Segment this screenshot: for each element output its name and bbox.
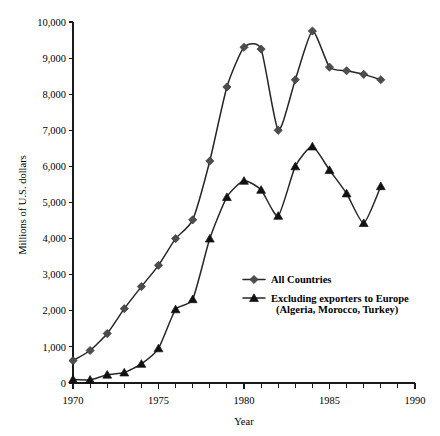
y-axis-tick-label: 6,000 <box>42 161 66 172</box>
data-point-marker <box>120 368 129 376</box>
x-axis-tick-label: 1970 <box>63 395 84 406</box>
y-axis-tick-label: 2,000 <box>42 305 66 316</box>
y-axis-tick-label: 10,000 <box>37 17 66 28</box>
data-point-marker <box>291 162 300 170</box>
data-point-marker <box>377 76 385 84</box>
data-point-marker <box>291 76 299 84</box>
x-axis-tick-label: 1980 <box>234 395 255 406</box>
data-point-marker <box>325 166 334 174</box>
data-point-marker <box>222 193 231 201</box>
x-axis: 19701975198019851990 <box>63 383 426 406</box>
legend-marker-diamond-icon <box>250 275 258 283</box>
legend-item[interactable]: Excluding exporters to Europe(Algeria, M… <box>243 293 409 317</box>
series-layer <box>69 27 386 383</box>
series-line <box>73 147 381 380</box>
legend-label: All Countries <box>271 274 331 285</box>
x-axis-tick-label: 1990 <box>405 395 426 406</box>
data-point-marker <box>325 63 333 71</box>
data-point-marker <box>360 70 368 78</box>
x-axis-tick-label: 1985 <box>319 395 340 406</box>
data-point-marker <box>343 67 351 75</box>
legend-item[interactable]: All Countries <box>243 274 331 285</box>
line-chart: 01,0002,0003,0004,0005,0006,0007,0008,00… <box>0 0 440 436</box>
data-point-marker <box>308 142 317 150</box>
data-point-marker <box>342 189 351 197</box>
data-point-marker <box>376 182 385 190</box>
data-point-marker <box>206 157 214 165</box>
y-axis-tick-label: 0 <box>61 378 66 389</box>
y-axis-tick-label: 8,000 <box>42 89 66 100</box>
x-axis-title: Year <box>234 416 254 427</box>
y-axis: 01,0002,0003,0004,0005,0006,0007,0008,00… <box>37 17 73 389</box>
x-axis-tick-label: 1975 <box>148 395 169 406</box>
chart-legend: All CountriesExcluding exporters to Euro… <box>243 274 409 316</box>
y-axis-tick-label: 3,000 <box>42 269 66 280</box>
data-point-marker <box>154 344 163 352</box>
series-excluding-exporters <box>69 142 386 383</box>
chart-container: 01,0002,0003,0004,0005,0006,0007,0008,00… <box>0 0 440 436</box>
data-point-marker <box>69 357 77 365</box>
data-point-marker <box>223 83 231 91</box>
data-point-marker <box>189 216 197 224</box>
legend-sublabel: (Algeria, Morocco, Turkey) <box>276 304 399 316</box>
data-point-marker <box>257 45 265 53</box>
legend-label: Excluding exporters to Europe <box>271 293 409 304</box>
y-axis-tick-label: 4,000 <box>42 233 66 244</box>
y-axis-title: Millions of U.S. dollars <box>17 155 28 254</box>
y-axis-tick-label: 7,000 <box>42 125 66 136</box>
data-point-marker <box>188 295 197 303</box>
y-axis-tick-label: 9,000 <box>42 53 66 64</box>
y-axis-tick-label: 1,000 <box>42 342 66 353</box>
y-axis-tick-label: 5,000 <box>42 197 66 208</box>
data-point-marker <box>205 234 214 242</box>
